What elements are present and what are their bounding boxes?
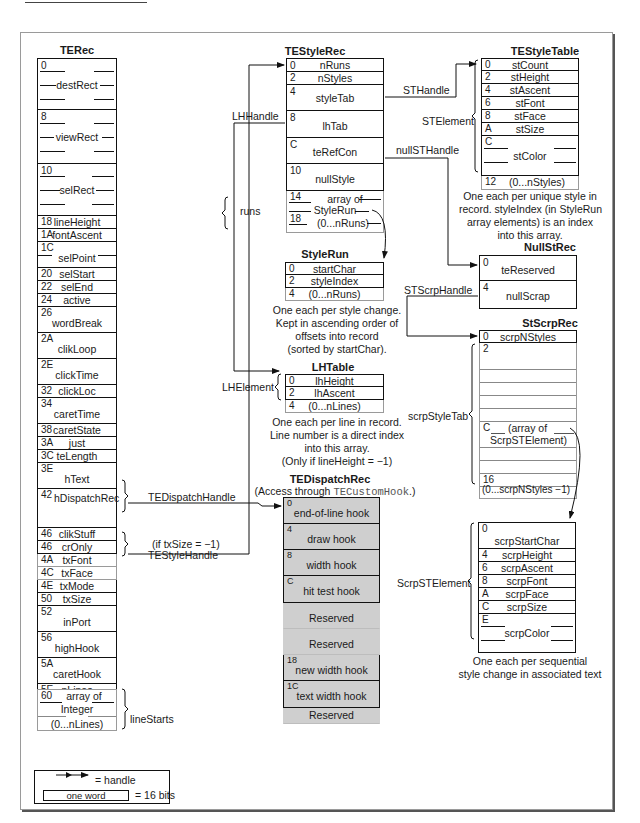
terec-field-txmode: 4EtxMode <box>37 580 117 593</box>
terec-field-clikstuff: 46clikStuff <box>37 528 117 541</box>
dispatch-field-new-width-hook: 18new width hook <box>283 655 380 681</box>
field-offset: 2 <box>483 343 489 354</box>
field-name: nullScrap <box>480 290 576 302</box>
field-offset: 10 <box>41 165 52 176</box>
field-name: styleTab <box>287 92 383 104</box>
legend-bits-label: = 16 bits <box>135 789 175 801</box>
field-offset: 0 <box>482 523 488 534</box>
lhtable-title: LHTable <box>288 361 378 373</box>
field-offset: 42 <box>41 489 52 500</box>
linestarts-cell: 60 array of Integer (0...nLines) <box>37 689 117 731</box>
terec-field-carettime: 34caretTime <box>37 398 117 424</box>
array-line2: ScrpSTElement) <box>490 434 567 446</box>
scrpstelement-label: ScrpSTElement <box>397 577 471 589</box>
field-name: hit test hook <box>284 585 379 597</box>
stscrprec-title: StScrpRec <box>505 317 595 329</box>
testylerec-field-nullstyle: 10 nullStyle <box>286 164 384 191</box>
testyletable-field-stascent: 4stAscent <box>481 84 579 97</box>
stscrphandle-label: STScrpHandle <box>404 284 472 296</box>
field-name: scrpNStyles <box>480 331 576 343</box>
terec-field-carethook: 5AcaretHook <box>37 658 117 684</box>
terec-field-wordbreak: 26wordBreak <box>37 307 117 333</box>
field-name: Reserved <box>284 638 379 650</box>
field-offset: 8 <box>41 111 47 122</box>
field-name: txFont <box>38 554 116 566</box>
terec-field-clikloop: 2AclikLoop <box>37 333 117 359</box>
field-name: scrpSize <box>479 601 575 613</box>
field-offset: E <box>482 614 489 625</box>
field-name: caretTime <box>38 408 116 420</box>
terec-title: TERec <box>36 44 118 56</box>
scrpstelement-field-scrpheight: 4scrpHeight <box>478 549 576 562</box>
field-name: stFace <box>482 110 578 122</box>
field-name: text width hook <box>284 690 379 702</box>
terec-field-selpoint: 1CselPoint <box>37 242 117 268</box>
scrpstelement-field-scrpstartchar: 0scrpStartChar <box>478 522 576 549</box>
terec-field-lineheight: 18lineHeight <box>37 216 117 229</box>
linestarts-label: lineStarts <box>130 713 174 725</box>
testyletable-field-stsize: AstSize <box>481 123 579 136</box>
stylerun-field-startchar: 0 startChar <box>285 262 384 275</box>
field-name: scrpFace <box>479 588 575 600</box>
field-name: selPoint <box>38 252 116 264</box>
stscrprec-field-scrpnstyles: 0 scrpNStyles <box>479 330 577 343</box>
stylerun-field-range: 4 (0...nRuns) <box>285 288 384 301</box>
array-line2: Integer <box>38 703 116 715</box>
dispatch-field-reserved: Reserved <box>283 603 380 629</box>
nullsthandle-label: nullSTHandle <box>396 144 459 156</box>
terec-field-inport: 52inPort <box>37 606 117 632</box>
testylerec-field-terefcon: C teRefCon <box>286 138 384 164</box>
legend-handle-label: = handle <box>95 774 136 786</box>
field-name: lhTab <box>287 120 383 132</box>
legend: = handle one word = 16 bits <box>34 770 170 804</box>
field-name: wordBreak <box>38 317 116 329</box>
testylehandle-label: TEStyleHandle <box>148 549 218 561</box>
field-name: stHeight <box>482 71 578 83</box>
field-name: clickLoc <box>38 385 116 397</box>
terec-field-txsize: 50txSize <box>37 593 117 606</box>
field-name: stColor <box>482 150 578 162</box>
field-name: (0...nLines) <box>286 400 383 412</box>
terec-field-selstart: 20selStart <box>37 268 117 281</box>
field-name: caretState <box>38 424 116 436</box>
terec-field-just: 3Ajust <box>37 437 117 450</box>
field-name: txMode <box>38 580 116 592</box>
field-name: end-of-line hook <box>284 507 379 519</box>
terec-field-cronly: 46crOnly <box>37 541 117 554</box>
testylerec-field-nstyles: 2 nStyles <box>286 72 384 85</box>
field-name: lhHeight <box>286 375 383 387</box>
field-name: width hook <box>284 559 379 571</box>
terec-field-destrect: 0 destRect <box>37 58 117 110</box>
testyletable-title: TEStyleTable <box>495 45 595 57</box>
field-offset: 60 <box>41 690 52 701</box>
dispatch-field-hit-test-hook: Chit test hook <box>283 576 380 603</box>
testylerec-field-styletab: 4 styleTab <box>286 85 384 111</box>
stylerun-note: One each per style change.Kept in ascend… <box>263 304 411 356</box>
scrpstelement-field-scrpascent: 6scrpAscent <box>478 562 576 575</box>
terec-field-clickloc: 32clickLoc <box>37 385 117 398</box>
testyletable-field-stcolor: CstColor <box>481 136 579 176</box>
field-name: selEnd <box>38 281 116 293</box>
stscrprec-styletab-array: 2 C (array of ScrpSTElement) 16 (0...scr… <box>479 343 577 499</box>
dispatch-field-text-width-hook: 1Ctext width hook <box>283 681 380 708</box>
lhhandle-label: LHHandle <box>232 110 279 122</box>
field-name: crOnly <box>38 541 116 553</box>
array-line1: array of <box>52 690 116 702</box>
terec-field-hdispatchrec: 42hDispatchRec <box>37 489 117 528</box>
field-name: scrpStartChar <box>479 535 575 547</box>
field-name: clikLoop <box>38 343 116 355</box>
field-name: inPort <box>38 616 116 628</box>
terec-field-selend: 22selEnd <box>37 281 117 294</box>
testyletable-field-0nstyles: 12(0...nStyles) <box>481 176 579 190</box>
testyletable-note: One each per unique style inrecord. styl… <box>459 190 601 242</box>
field-name: hDispatchRec <box>54 492 116 504</box>
field-name: clickTime <box>38 369 116 381</box>
field-offset: C <box>485 136 492 147</box>
field-name: stCount <box>482 59 578 71</box>
field-name: styleIndex <box>286 275 383 287</box>
field-name: lhAscent <box>286 387 383 399</box>
terec-field-fontascent: 1AfontAscent <box>37 229 117 242</box>
stylerun-title: StyleRun <box>280 248 370 260</box>
field-name: active <box>38 294 116 306</box>
runs-label: runs <box>240 205 260 217</box>
